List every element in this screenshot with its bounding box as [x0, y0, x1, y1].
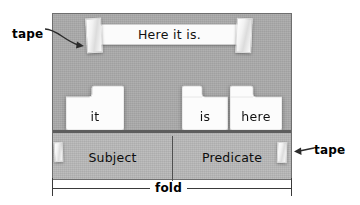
fold-tick-left — [52, 178, 53, 196]
diagram-canvas: Here it is. it is here Subject Pred — [0, 0, 360, 205]
word-card-here: here — [230, 85, 282, 130]
fold-tick-right — [291, 178, 292, 196]
tape-callout-label-right: tape — [314, 143, 345, 157]
tape-callout-arrow-right — [292, 143, 316, 159]
fold-flap-panel: Subject Predicate — [53, 130, 291, 179]
tape-piece-flap-right — [277, 142, 288, 163]
tape-piece-flap-left — [53, 142, 63, 162]
word-card-is: is — [182, 85, 228, 130]
word-card-it-label: it — [66, 109, 124, 124]
tape-callout-label-left: tape — [12, 27, 43, 41]
tape-piece-strip-right — [235, 18, 253, 54]
sentence-strip: Here it is. — [97, 24, 242, 45]
subject-label: Subject — [88, 150, 136, 165]
tape-callout-arrow-left — [44, 26, 90, 54]
subject-cell: Subject — [53, 133, 172, 182]
word-card-here-label: here — [230, 109, 282, 124]
fold-label: fold — [150, 181, 187, 195]
sentence-strip-text: Here it is. — [138, 27, 201, 42]
predicate-label: Predicate — [202, 150, 262, 165]
predicate-cell: Predicate — [173, 133, 291, 182]
word-card-is-label: is — [182, 109, 228, 124]
word-card-it: it — [66, 85, 124, 130]
